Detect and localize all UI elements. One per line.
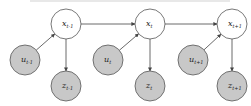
node-u_next: ut+1	[178, 45, 208, 75]
edge-u_prev-to-x_prev	[36, 34, 54, 50]
graphical-model-diagram: xt-1xtxt+1ut-1utut+1zt-1ztzt+1	[0, 0, 251, 106]
node-u_t: ut	[93, 45, 123, 75]
node-z_t: zt	[135, 71, 165, 101]
node-x_next: xt+1	[217, 9, 247, 39]
edge-u_next-to-x_next	[204, 34, 221, 50]
nodes: xt-1xtxt+1ut-1utut+1zt-1ztzt+1	[10, 9, 247, 101]
node-z_next: zt+1	[217, 71, 247, 101]
edge-u_t-to-x_t	[119, 34, 138, 50]
node-x_prev: xt-1	[51, 9, 81, 39]
cropped-text-strip	[30, 0, 230, 2]
node-x_t: xt	[135, 9, 165, 39]
node-u_prev: ut-1	[10, 45, 40, 75]
node-z_prev: zt-1	[51, 71, 81, 101]
